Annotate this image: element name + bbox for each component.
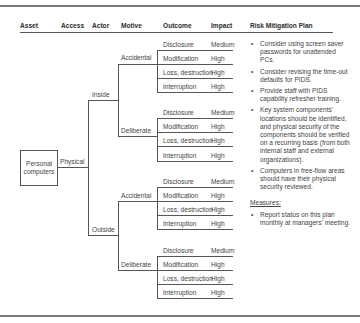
plan-item: Consider revising the time-out defaults … [250, 68, 350, 84]
motive-trunk-inside [118, 64, 119, 136]
outcome-bracket [157, 187, 158, 229]
outcome-label: Modification [163, 192, 198, 200]
row-divider [157, 161, 233, 162]
plan-item: Consider using screen saver passwords fo… [250, 40, 350, 65]
motive-connector [118, 270, 157, 271]
outcome-bracket [157, 50, 158, 92]
outcome-label: Loss, destruction [163, 69, 213, 77]
row-divider [157, 146, 233, 147]
plan-item: Key system components' locations should … [250, 106, 350, 163]
outcome-label: Disclosure [163, 178, 194, 186]
row-divider [157, 50, 233, 51]
row-divider [157, 132, 233, 133]
asset-label: Personal computers [21, 160, 57, 176]
impact-label: High [211, 137, 225, 145]
motive-outside-deliberate-label: Deliberate [121, 261, 151, 269]
top-rule [0, 5, 360, 7]
outcome-label: Disclosure [163, 109, 194, 117]
motive-trunk-outside [118, 201, 119, 270]
impact-label: High [211, 55, 225, 63]
row-divider [157, 78, 233, 79]
header-access: Access [61, 22, 84, 29]
outcome-label: Interruption [163, 289, 196, 297]
impact-label: High [211, 220, 225, 228]
header-asset: Asset [20, 22, 38, 29]
header-underline [20, 32, 333, 33]
header-motive: Motive [121, 22, 142, 29]
impact-label: High [211, 69, 225, 77]
row-divider [157, 201, 233, 202]
outcome-label: Loss, destruction [163, 137, 213, 145]
actor-inside-label: Inside [92, 91, 110, 99]
row-divider [157, 229, 233, 230]
row-divider [157, 284, 233, 285]
outcome-bracket [157, 118, 158, 161]
plan-item: Provide staff with PIDS capability refre… [250, 87, 350, 103]
bottom-rule [0, 315, 360, 317]
header-risk-mitigation-plan: Risk Mitigation Plan [250, 22, 313, 29]
measure-item: Report status on this plan monthly at ma… [250, 211, 350, 227]
impact-label: High [211, 123, 225, 131]
outcome-label: Modification [163, 55, 198, 63]
risk-mitigation-plan: Consider using screen saver passwords fo… [250, 40, 350, 230]
motive-connector [118, 64, 157, 65]
row-divider [157, 270, 233, 271]
outcome-label: Interruption [163, 152, 196, 160]
outcome-label: Disclosure [163, 247, 194, 255]
outcome-label: Interruption [163, 83, 196, 91]
outcome-label: Disclosure [163, 41, 194, 49]
header-outcome: Outcome [163, 22, 192, 29]
impact-label: High [211, 83, 225, 91]
motive-connector [118, 136, 157, 137]
actor-trunk [88, 100, 89, 235]
outcome-label: Loss, destruction [163, 275, 213, 283]
measures-list: Report status on this plan monthly at ma… [250, 211, 350, 227]
impact-label: High [211, 289, 225, 297]
row-divider [157, 215, 233, 216]
row-divider [157, 118, 233, 119]
row-divider [157, 92, 233, 93]
actor-inside-connector [88, 100, 118, 101]
row-divider [157, 64, 233, 65]
impact-label: High [211, 206, 225, 214]
outcome-bracket [157, 256, 158, 298]
motive-inside-accidental-label: Accidental [121, 54, 151, 62]
outcome-label: Modification [163, 261, 198, 269]
row-divider [157, 256, 233, 257]
impact-label: Medium [211, 41, 234, 49]
header-actor: Actor [92, 22, 109, 29]
plan-item: Computers in free-flow areas should have… [250, 167, 350, 192]
impact-label: Medium [211, 247, 234, 255]
header-impact: Impact [211, 22, 232, 29]
outcome-label: Loss, destruction [163, 206, 213, 214]
actor-outside-label: Outside [92, 226, 115, 234]
impact-label: Medium [211, 178, 234, 186]
measures-heading: Measures: [250, 199, 350, 207]
outcome-label: Interruption [163, 220, 196, 228]
motive-connector [118, 201, 157, 202]
access-connector [57, 167, 88, 168]
access-label: Physical [60, 158, 85, 166]
row-divider [157, 187, 233, 188]
impact-label: High [211, 152, 225, 160]
impact-label: Medium [211, 109, 234, 117]
impact-label: High [211, 275, 225, 283]
row-divider [157, 298, 233, 299]
motive-inside-deliberate-label: Deliberate [121, 127, 151, 135]
impact-label: High [211, 192, 225, 200]
outcome-label: Modification [163, 123, 198, 131]
motive-outside-accidental-label: Accidental [121, 192, 151, 200]
plan-list: Consider using screen saver passwords fo… [250, 40, 350, 191]
actor-outside-connector [88, 235, 118, 236]
asset-box: Personal computers [20, 150, 58, 186]
impact-label: High [211, 261, 225, 269]
